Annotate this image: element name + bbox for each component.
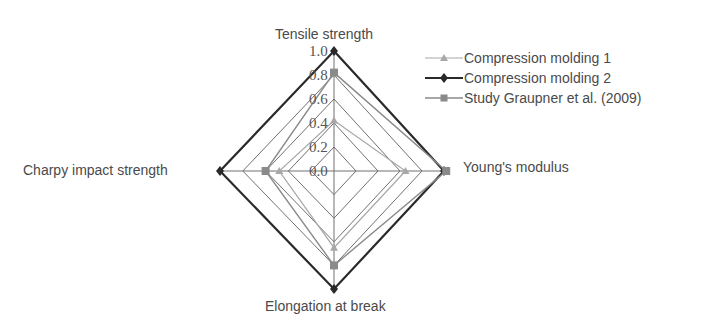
chart-legend: Compression molding 1 Compression moldin… bbox=[423, 48, 641, 108]
tick-label-0-4: 0.4 bbox=[309, 116, 328, 131]
axis-label-elongation-at-break: Elongation at break bbox=[265, 298, 386, 314]
tick-label-1-0: 1.0 bbox=[309, 44, 328, 59]
legend-item-compression-molding-1: Compression molding 1 bbox=[423, 48, 641, 68]
data-point-marker bbox=[330, 261, 338, 269]
legend-item-study-graupner: Study Graupner et al. (2009) bbox=[423, 88, 641, 108]
tick-label-0-8: 0.8 bbox=[309, 68, 328, 83]
data-point-marker bbox=[330, 117, 338, 124]
series-diamond bbox=[216, 46, 448, 294]
legend-label: Compression molding 1 bbox=[464, 50, 611, 66]
data-point-marker bbox=[262, 167, 270, 175]
axis-label-youngs-modulus: Young's modulus bbox=[463, 159, 569, 175]
legend-item-compression-molding-2: Compression molding 2 bbox=[423, 68, 641, 88]
data-point-marker bbox=[330, 69, 338, 77]
radar-grid bbox=[220, 51, 444, 289]
axis-label-tensile-strength: Tensile strength bbox=[275, 26, 373, 42]
tick-label-0-6: 0.6 bbox=[309, 92, 328, 107]
square-marker-icon bbox=[423, 91, 463, 105]
diamond-marker-icon bbox=[423, 71, 463, 85]
legend-label: Compression molding 2 bbox=[464, 70, 611, 86]
tick-label-0-2: 0.2 bbox=[309, 140, 328, 155]
tick-label-0-0: 0.0 bbox=[309, 164, 328, 179]
legend-label: Study Graupner et al. (2009) bbox=[464, 90, 641, 106]
axis-label-charpy-impact-strength: Charpy impact strength bbox=[23, 162, 168, 178]
radar-series bbox=[216, 46, 450, 294]
data-point-marker bbox=[442, 167, 450, 175]
triangle-marker-icon bbox=[423, 51, 463, 65]
